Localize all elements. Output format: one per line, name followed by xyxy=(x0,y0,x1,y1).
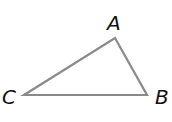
vertex-label-b: B xyxy=(155,85,169,109)
triangle-abc xyxy=(24,38,147,95)
vertex-label-a: A xyxy=(105,11,121,35)
triangle-diagram: A B C xyxy=(0,0,172,122)
vertex-label-c: C xyxy=(2,85,16,109)
